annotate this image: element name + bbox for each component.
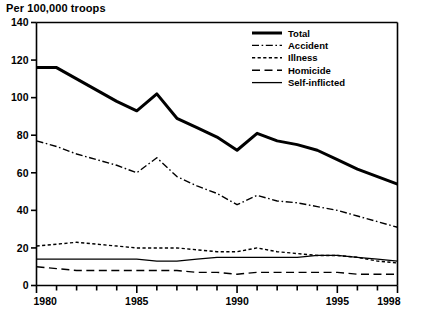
y-tick-label: 40 (17, 204, 29, 216)
chart-container: Per 100,000 troops 020406080100120140198… (0, 0, 425, 313)
y-tick-label: 140 (11, 16, 29, 28)
y-tick-label: 80 (17, 129, 29, 141)
legend-label-total: Total (288, 28, 310, 39)
series-line-illness (37, 242, 398, 263)
x-tick-label: 1995 (326, 295, 350, 307)
y-tick-label: 60 (17, 167, 29, 179)
series-line-accident (37, 141, 398, 227)
x-tick-label: 1985 (125, 295, 149, 307)
x-tick-label: 1980 (34, 295, 58, 307)
series-line-homicide (37, 267, 398, 275)
y-tick-label: 100 (11, 91, 29, 103)
legend-label-homicide: Homicide (288, 65, 331, 76)
legend-label-accident: Accident (288, 40, 329, 51)
chart-plot-area: 02040608010012014019801985199019951998To… (0, 0, 425, 313)
x-tick-label: 1990 (225, 295, 249, 307)
x-tick-label: 1998 (377, 295, 401, 307)
y-tick-label: 0 (23, 279, 29, 291)
series-line-self-inflicted (37, 255, 398, 261)
y-tick-label: 120 (11, 54, 29, 66)
legend-label-self-inflicted: Self-inflicted (288, 77, 345, 88)
legend-label-illness: Illness (288, 52, 318, 63)
y-tick-label: 20 (17, 242, 29, 254)
